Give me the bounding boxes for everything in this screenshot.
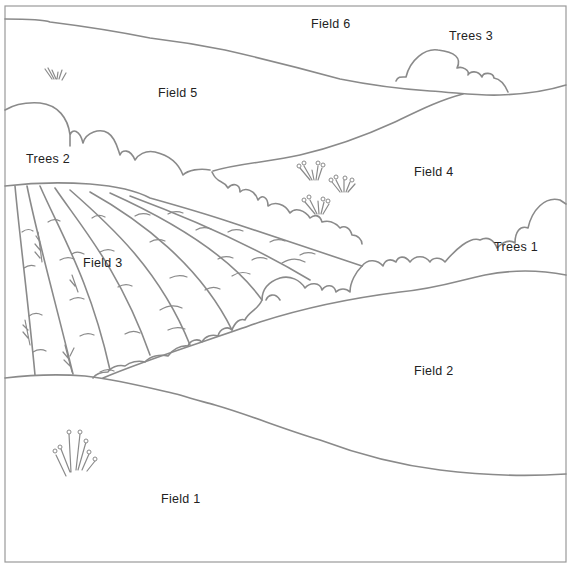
field3-grass-tufts <box>23 232 78 372</box>
field5-grass-tuft <box>45 68 66 80</box>
label-trees2: Trees 2 <box>26 152 70 166</box>
trees3-outline <box>396 50 508 92</box>
label-field3: Field 3 <box>83 256 123 270</box>
field4-flower-clumps <box>297 161 355 214</box>
frame-border <box>5 6 566 562</box>
label-field6: Field 6 <box>311 17 351 31</box>
label-field1: Field 1 <box>161 492 201 506</box>
trees1-outline <box>362 199 566 266</box>
trees2-lower-outline <box>212 172 362 244</box>
label-field5: Field 5 <box>158 86 198 100</box>
boundary-field4-field5 <box>213 94 463 171</box>
field1-flower-clump <box>53 430 97 476</box>
label-field4: Field 4 <box>414 165 454 179</box>
boundary-field1-field2 <box>5 375 566 475</box>
field3-furrows <box>15 186 310 375</box>
label-field2: Field 2 <box>414 364 454 378</box>
label-trees3: Trees 3 <box>449 29 493 43</box>
label-trees1: Trees 1 <box>494 240 538 254</box>
landscape-diagram <box>0 0 571 568</box>
